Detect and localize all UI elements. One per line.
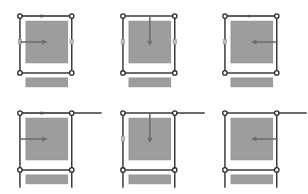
lower-bar	[26, 78, 68, 87]
handle-top-left[interactable]	[18, 111, 22, 115]
lower-bar	[231, 175, 273, 184]
diagram-cell-bottom-right	[205, 97, 308, 194]
handle-top-right[interactable]	[172, 14, 176, 18]
handle-bottom-left[interactable]	[120, 71, 124, 75]
handle-top-right[interactable]	[172, 111, 176, 115]
handle-bottom-right[interactable]	[70, 168, 74, 172]
diagram-cell-top-left	[0, 0, 103, 97]
handle-bottom-right[interactable]	[172, 71, 176, 75]
left-mid-handle[interactable]	[121, 136, 125, 141]
handle-top-left[interactable]	[223, 111, 227, 115]
handle-bottom-left[interactable]	[120, 168, 124, 172]
handle-top-right[interactable]	[70, 14, 74, 18]
diagram-cell-bottom-left	[0, 97, 103, 194]
handle-top-left[interactable]	[120, 14, 124, 18]
handle-bottom-left[interactable]	[18, 168, 22, 172]
handle-top-left[interactable]	[18, 14, 22, 18]
right-mid-handle[interactable]	[173, 39, 177, 44]
handle-bottom-right[interactable]	[172, 168, 176, 172]
handle-bottom-right[interactable]	[275, 71, 279, 75]
diagram-cell-bottom-center	[103, 97, 206, 194]
diagram-grid	[0, 0, 308, 194]
handle-bottom-left[interactable]	[223, 168, 227, 172]
handle-top-left[interactable]	[120, 111, 124, 115]
handle-top-right[interactable]	[70, 111, 74, 115]
lower-bar	[231, 78, 273, 87]
lower-bar	[26, 175, 68, 184]
right-mid-handle[interactable]	[70, 39, 74, 44]
handle-bottom-left[interactable]	[223, 71, 227, 75]
handle-top-right[interactable]	[275, 111, 279, 115]
handle-top-right[interactable]	[275, 14, 279, 18]
handle-bottom-right[interactable]	[70, 71, 74, 75]
diagram-cell-top-right	[205, 0, 308, 97]
diagram-cell-top-center	[103, 0, 206, 97]
left-mid-handle[interactable]	[121, 39, 125, 44]
handle-bottom-right[interactable]	[275, 168, 279, 172]
handle-bottom-left[interactable]	[18, 71, 22, 75]
handle-top-left[interactable]	[223, 14, 227, 18]
lower-bar	[129, 175, 171, 184]
left-mid-handle[interactable]	[223, 39, 227, 44]
lower-bar	[129, 78, 171, 87]
